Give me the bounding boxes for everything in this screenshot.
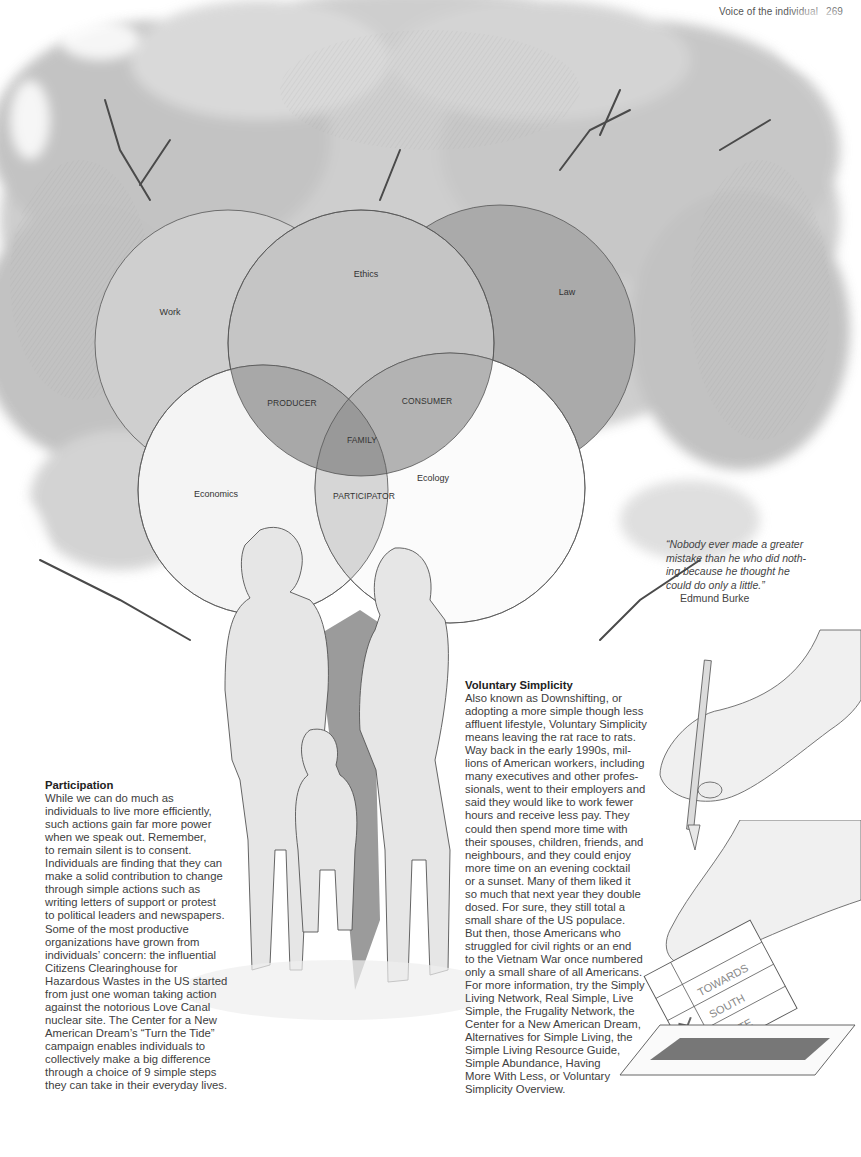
venn-label-economics: Economics [194, 489, 238, 499]
venn-label-consumer: CONSUMER [402, 396, 452, 406]
pull-quote: “Nobody ever made a greater mistake than… [666, 538, 846, 606]
quote-author: Edmund Burke [666, 592, 846, 606]
quote-line: mistake than he who did noth- [666, 552, 806, 564]
article-body: While we can do much as individuals to l… [45, 792, 237, 1092]
quote-line: ing because he thought he [666, 565, 790, 577]
quote-line: “Nobody ever made a greater [666, 538, 803, 550]
venn-label-family: FAMILY [347, 435, 377, 445]
venn-label-ecology: Ecology [417, 473, 449, 483]
venn-label-work: Work [160, 307, 181, 317]
venn-label-participator: PARTICIPATOR [333, 491, 395, 501]
article-heading: Participation [45, 779, 237, 792]
venn-label-law: Law [559, 287, 576, 297]
article-body: Also known as Downshifting, or adopting … [465, 692, 647, 1096]
quote-line: could do only a little.” [666, 579, 765, 591]
venn-label-ethics: Ethics [354, 269, 379, 279]
article-heading: Voluntary Simplicity [465, 679, 647, 692]
article-participation: Participation While we can do much as in… [45, 779, 237, 1092]
article-voluntary-simplicity: Voluntary Simplicity Also known as Downs… [465, 679, 647, 1097]
venn-label-producer: PRODUCER [267, 398, 316, 408]
